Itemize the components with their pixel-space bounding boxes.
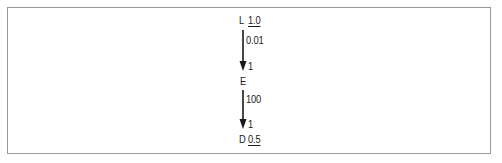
edge-e-d-target-label: 1 (248, 119, 253, 130)
node-d-label: D (239, 134, 246, 145)
node-e-label: E (240, 76, 246, 87)
diagram-frame (7, 7, 491, 154)
edge-l-e-source-label: 0.01 (246, 35, 264, 46)
node-l-value: 1.0 (248, 15, 260, 26)
edge-e-d-source-label: 100 (246, 94, 261, 105)
node-d-value: 0.5 (248, 134, 260, 145)
node-l-label: L (239, 15, 244, 26)
edge-l-e-target-label: 1 (248, 61, 253, 72)
